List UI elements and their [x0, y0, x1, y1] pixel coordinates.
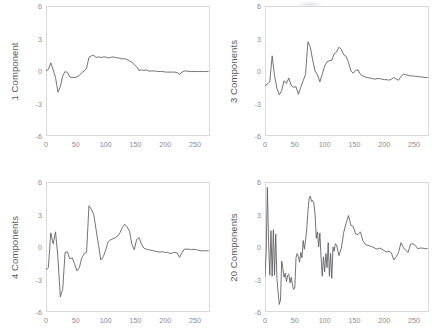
y-tick-label: 6 [26, 2, 42, 11]
y-ticks-panel-1: 630-3-6 [20, 6, 42, 136]
x-tick-label: 200 [153, 140, 177, 149]
x-tick-label: 0 [253, 316, 277, 325]
x-tick-label: 100 [313, 140, 337, 149]
x-tick-label: 100 [94, 140, 118, 149]
y-tick-label: 6 [26, 178, 42, 187]
x-ticks-panel-4: 050100150200250 [265, 316, 429, 330]
x-tick-label: 200 [153, 316, 177, 325]
x-tick-label: 150 [123, 316, 147, 325]
x-tick-label: 0 [34, 140, 58, 149]
y-tick-label: 3 [26, 34, 42, 43]
y-tick-label: 6 [245, 2, 261, 11]
x-tick-label: 250 [183, 316, 207, 325]
panel-4-components: 4 Components 630-3-6 050100150200250 [0, 168, 219, 336]
y-ticks-panel-3: 630-3-6 [20, 182, 42, 312]
figure-panel-grid: 1 Component 630-3-6 050100150200250 3 Co… [0, 0, 438, 336]
y-tick-label: 0 [245, 243, 261, 252]
x-ticks-panel-1: 050100150200250 [46, 140, 210, 154]
y-tick-label: -3 [245, 275, 261, 284]
series-line-panel-3 [46, 182, 210, 312]
series-line-panel-1 [46, 6, 210, 136]
y-ticks-panel-2: 630-3-6 [239, 6, 261, 136]
x-tick-label: 0 [34, 316, 58, 325]
series-line-panel-4 [265, 182, 429, 312]
plot-area-panel-4 [265, 182, 429, 312]
y-tick-label: 3 [245, 210, 261, 219]
x-tick-label: 200 [372, 140, 396, 149]
x-tick-label: 250 [402, 316, 426, 325]
x-tick-label: 50 [283, 316, 307, 325]
panel-1-component: 1 Component 630-3-6 050100150200250 [0, 0, 219, 168]
panel-20-components: 20 Components 630-3-6 050100150200250 [219, 168, 438, 336]
plot-area-panel-2 [265, 6, 429, 136]
x-tick-label: 250 [183, 140, 207, 149]
x-ticks-panel-3: 050100150200250 [46, 316, 210, 330]
x-tick-label: 250 [402, 140, 426, 149]
x-ticks-panel-2: 050100150200250 [265, 140, 429, 154]
y-tick-label: 3 [245, 34, 261, 43]
y-ticks-panel-4: 630-3-6 [239, 182, 261, 312]
panel-3-components: 3 Components 630-3-6 050100150200250 [219, 0, 438, 168]
y-tick-label: 0 [245, 67, 261, 76]
y-tick-label: 3 [26, 210, 42, 219]
y-tick-label: -3 [26, 275, 42, 284]
x-tick-label: 100 [94, 316, 118, 325]
y-tick-label: 0 [26, 243, 42, 252]
x-tick-label: 150 [342, 140, 366, 149]
x-tick-label: 100 [313, 316, 337, 325]
y-tick-label: 0 [26, 67, 42, 76]
x-tick-label: 50 [64, 316, 88, 325]
x-tick-label: 150 [342, 316, 366, 325]
x-tick-label: 150 [123, 140, 147, 149]
x-tick-label: 0 [253, 140, 277, 149]
plot-area-panel-3 [46, 182, 210, 312]
x-tick-label: 50 [64, 140, 88, 149]
x-tick-label: 50 [283, 140, 307, 149]
x-tick-label: 200 [372, 316, 396, 325]
y-tick-label: -3 [26, 99, 42, 108]
plot-area-panel-1 [46, 6, 210, 136]
y-tick-label: 6 [245, 178, 261, 187]
y-tick-label: -3 [245, 99, 261, 108]
series-line-panel-2 [265, 6, 429, 136]
